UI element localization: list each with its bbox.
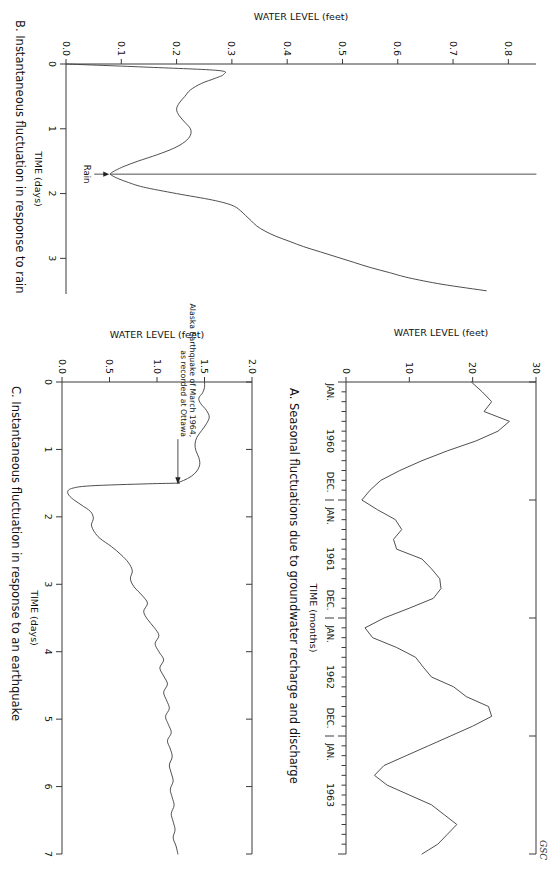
panel-b-series-line — [66, 64, 486, 291]
panel-c-xtick-label: 3 — [43, 581, 54, 587]
panel-b-xtick-label: 3 — [47, 255, 58, 261]
panel-b-xtick-label: 2 — [47, 191, 58, 197]
panel-b-ytick-label: 0.6 — [392, 41, 403, 56]
panel-a-year-label: 1960 — [325, 429, 336, 453]
panel-a-ytick-label: 30 — [531, 362, 542, 374]
panel-c-xtick-label: 0 — [43, 379, 54, 385]
panel-b-plot: 0.00.10.20.30.40.50.60.70.8WATER LEVEL (… — [6, 6, 552, 306]
panel-b-ytick-label: 0.1 — [116, 41, 127, 56]
panel-c-axes — [62, 382, 252, 854]
panel-a-x-boundary-label: DEC. — [325, 708, 335, 729]
panel-a-xlabel: TIME (months) — [308, 582, 319, 652]
figure-root: 0.00.10.20.30.40.50.60.70.8WATER LEVEL (… — [0, 0, 560, 873]
panel-b: 0.00.10.20.30.40.50.60.70.8WATER LEVEL (… — [6, 6, 552, 306]
panel-a-plot: 0102030WATER LEVEL (feet)JAN.DEC.JAN.DEC… — [290, 318, 552, 866]
panel-a-ytick-label: 20 — [467, 362, 478, 374]
panel-b-ytick-label: 0.5 — [337, 41, 348, 56]
panel-a-axes — [346, 382, 536, 854]
panel-c-xtick-label: 5 — [43, 716, 54, 722]
panel-c-title: C. Instantaneous fluctuation in response… — [9, 386, 23, 721]
panel-a-x-boundary-label: JAN. — [325, 624, 335, 642]
panel-c-ytick-label: 0.5 — [104, 359, 115, 374]
panel-c-xlabel: TIME (days) — [29, 589, 40, 646]
panel-c-eq-label-line1: Alaska Earthquake of March 1964, — [188, 304, 197, 438]
panel-c-xtick-label: 7 — [43, 851, 54, 857]
panel-a-x-boundary-label: JAN. — [325, 383, 335, 401]
panel-a-year-label: 1961 — [325, 547, 336, 571]
panel-b-xlabel: TIME (days) — [33, 150, 44, 207]
panel-c-xtick-label: 6 — [43, 784, 54, 790]
panel-b-ytick-label: 0.4 — [282, 41, 293, 56]
panel-b-ytick-label: 0.2 — [171, 41, 182, 56]
panel-c-ytick-label: 1.5 — [199, 359, 210, 374]
panel-b-title: B. Instantaneous fluctuation in response… — [13, 20, 27, 293]
panel-a-ytick-label: 10 — [404, 362, 415, 374]
panel-c: 0.00.51.01.52.0WATER LEVEL (feet)0123456… — [6, 318, 270, 866]
panel-c-ytick-label: 2.0 — [247, 359, 258, 374]
panel-c-xtick-label: 2 — [43, 514, 54, 520]
panel-c-ytick-label: 1.0 — [152, 359, 163, 374]
panel-a-x-boundary-label: DEC. — [325, 590, 335, 611]
panel-a-title: A. Seasonal fluctuations due to groundwa… — [287, 388, 301, 784]
panel-b-ylabel: WATER LEVEL (feet) — [254, 11, 348, 22]
panel-c-plot: 0.00.51.01.52.0WATER LEVEL (feet)0123456… — [6, 318, 270, 866]
panel-c-ytick-label: 0.0 — [57, 359, 68, 374]
panel-a-series-line — [362, 382, 510, 854]
panel-b-ytick-label: 0.8 — [503, 41, 514, 56]
panel-c-eq-label-line2: as recorded at Ottawa — [179, 350, 188, 437]
panel-a-ylabel: WATER LEVEL (feet) — [394, 327, 488, 338]
gsc-credit: GSC — [538, 840, 548, 860]
panel-a-ytick-label: 0 — [341, 368, 352, 374]
panel-a-x-boundary-label: DEC. — [325, 472, 335, 493]
panel-b-axes — [66, 64, 536, 294]
panel-b-xtick-label: 0 — [47, 61, 58, 67]
panel-a-x-boundary-label: JAN. — [325, 506, 335, 524]
panel-a: 0102030WATER LEVEL (feet)JAN.DEC.JAN.DEC… — [290, 318, 552, 866]
panel-c-xtick-label: 1 — [43, 446, 54, 452]
panel-b-rain-label: Rain — [82, 165, 92, 184]
panel-b-rain-arrowhead — [103, 172, 109, 177]
panel-b-ytick-label: 0.0 — [61, 41, 72, 56]
panel-c-series-line — [68, 382, 210, 854]
panel-b-ytick-label: 0.3 — [226, 41, 237, 56]
panel-a-year-label: 1962 — [325, 665, 336, 689]
panel-c-xtick-label: 4 — [43, 649, 54, 655]
panel-b-xtick-label: 1 — [47, 126, 58, 132]
panel-a-year-label: 1963 — [325, 783, 336, 807]
panel-b-ytick-label: 0.7 — [448, 41, 459, 56]
panel-a-x-boundary-label: JAN. — [325, 742, 335, 760]
